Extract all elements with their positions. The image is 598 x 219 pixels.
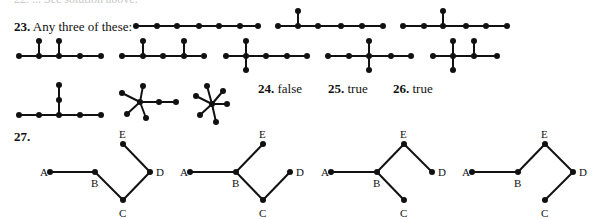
graph-vertex xyxy=(450,67,456,73)
graph-vertex xyxy=(140,53,146,59)
vertex-label: E xyxy=(541,128,548,140)
graph-vertex xyxy=(133,23,139,29)
vertex-label: D xyxy=(579,166,587,178)
tree-edge xyxy=(95,172,123,200)
graph-vertex xyxy=(338,23,344,29)
graph-vertex xyxy=(237,23,243,29)
graph-vertex xyxy=(56,53,62,59)
tree-graph xyxy=(119,83,179,121)
graph-vertex xyxy=(137,99,143,105)
graph-vertex xyxy=(275,23,281,29)
graph-vertex xyxy=(36,53,42,59)
vertex-label: B xyxy=(373,177,380,189)
problem-23-trees xyxy=(16,8,510,125)
vertex-label: A xyxy=(180,166,188,178)
tree-edge xyxy=(377,172,404,200)
graph-vertex xyxy=(325,53,331,59)
graph-vertex xyxy=(119,90,125,96)
graph-vertex xyxy=(193,93,199,99)
graph-vertex xyxy=(504,23,510,29)
graph-vertex xyxy=(98,53,104,59)
tree-vertex xyxy=(287,169,293,175)
vertex-label: E xyxy=(119,128,126,140)
tree-edge xyxy=(545,172,573,200)
graph-edge xyxy=(122,93,140,102)
tree-edge xyxy=(123,144,150,172)
graph-vertex xyxy=(56,112,62,118)
tree-vertex xyxy=(233,169,239,175)
tree-vertex xyxy=(120,141,126,147)
tree-vertex xyxy=(92,169,98,175)
tree-graph xyxy=(223,38,310,73)
vertex-label: B xyxy=(91,177,98,189)
graph-vertex xyxy=(366,67,372,73)
graph-vertex xyxy=(56,38,62,44)
tree-edge xyxy=(236,144,263,172)
graph-vertex xyxy=(430,53,436,59)
graph-vertex xyxy=(295,23,301,29)
graph-vertex xyxy=(201,53,207,59)
graph-vertex xyxy=(346,53,352,59)
graph-vertex xyxy=(209,101,215,107)
graph-vertex xyxy=(366,53,372,59)
graph-vertex xyxy=(366,38,372,44)
graph-vertex xyxy=(140,38,146,44)
tree-edge xyxy=(236,172,263,200)
graph-vertex xyxy=(181,53,187,59)
graph-vertex xyxy=(494,53,500,59)
graph-vertex xyxy=(295,8,301,14)
tree-graph xyxy=(119,38,207,59)
tree-edge xyxy=(545,144,573,172)
graph-vertex xyxy=(450,38,456,44)
graph-vertex xyxy=(160,53,166,59)
tree-edge xyxy=(377,144,404,172)
tree-vertex xyxy=(147,169,153,175)
vertex-label: D xyxy=(296,166,304,178)
tree-graph xyxy=(193,83,230,125)
graph-vertex xyxy=(154,23,160,29)
graph-vertex xyxy=(124,111,130,117)
tree-vertex xyxy=(260,141,266,147)
graph-vertex xyxy=(359,23,365,29)
graph-vertex xyxy=(304,53,310,59)
graph-vertex xyxy=(77,112,83,118)
graph-vertex xyxy=(143,115,149,121)
vertex-label: C xyxy=(400,207,407,219)
tree-graph xyxy=(133,23,261,29)
graph-vertex xyxy=(16,112,22,118)
graph-vertex xyxy=(36,38,42,44)
spanning-tree: ABCDE xyxy=(180,128,304,219)
tree-vertex xyxy=(542,141,548,147)
spanning-tree: ABCDE xyxy=(40,128,164,219)
vertex-label: C xyxy=(119,207,126,219)
graph-vertex xyxy=(156,99,162,105)
graph-vertex xyxy=(315,23,321,29)
vertex-label: A xyxy=(40,166,48,178)
tree-graph xyxy=(325,38,414,73)
graph-vertex xyxy=(98,112,104,118)
graph-vertex xyxy=(224,101,230,107)
graph-vertex xyxy=(196,23,202,29)
graph-vertex xyxy=(56,97,62,103)
tree-vertex xyxy=(401,141,407,147)
graph-vertex xyxy=(255,23,261,29)
graph-vertex xyxy=(243,38,249,44)
graph-vertex xyxy=(16,53,22,59)
graph-vertex xyxy=(263,53,269,59)
graph-vertex xyxy=(243,67,249,73)
tree-vertex xyxy=(429,169,435,175)
tree-edge xyxy=(123,172,150,200)
graph-vertex xyxy=(181,38,187,44)
graph-vertex xyxy=(204,83,210,89)
graph-vertex xyxy=(223,53,229,59)
vertex-label: A xyxy=(462,166,470,178)
vertex-label: E xyxy=(259,128,266,140)
graph-vertex xyxy=(77,53,83,59)
tree-vertex xyxy=(570,169,576,175)
graph-vertex xyxy=(408,53,414,59)
spanning-tree: ABCDE xyxy=(462,128,587,219)
tree-graph xyxy=(16,38,104,59)
graph-vertex xyxy=(471,38,477,44)
graph-vertex xyxy=(213,119,219,125)
graph-vertex xyxy=(483,23,489,29)
